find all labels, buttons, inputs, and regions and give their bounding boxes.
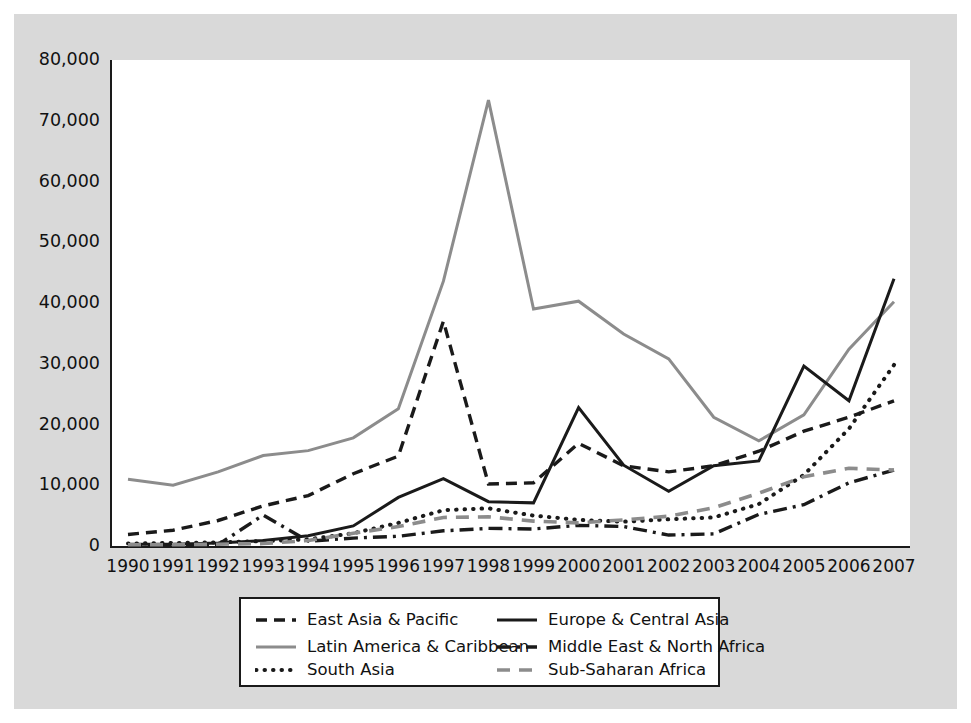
y-tick-label: 70,000 [14, 110, 100, 130]
legend-item[interactable]: Europe & Central Asia [496, 607, 729, 632]
y-tick-label: 10,000 [14, 474, 100, 494]
series-line [128, 365, 894, 544]
series-line [128, 279, 894, 544]
chart-legend: East Asia & PacificEurope & Central Asia… [239, 597, 720, 687]
solid-gray-line-swatch [255, 640, 297, 654]
legend-item-label: Middle East & North Africa [548, 637, 765, 656]
dash-dot-line-swatch [496, 640, 538, 654]
y-tick-label: 60,000 [14, 171, 100, 191]
legend-item[interactable]: South Asia [255, 657, 395, 682]
legend-item[interactable]: Middle East & North Africa [496, 634, 765, 659]
legend-item[interactable]: Latin America & Caribbean [255, 634, 529, 659]
long-dash-gray-line-swatch [496, 663, 538, 677]
series-line [128, 100, 894, 485]
x-tick-label: 2007 [868, 556, 920, 576]
legend-item-label: South Asia [307, 660, 395, 679]
y-tick-label: 80,000 [14, 49, 100, 69]
y-tick-label: 40,000 [14, 292, 100, 312]
chart-figure: 80,00070,00060,00050,00040,00030,00020,0… [14, 14, 957, 709]
dashed-line-swatch [255, 613, 297, 627]
chart-page-background: 80,00070,00060,00050,00040,00030,00020,0… [14, 14, 957, 709]
legend-item-label: Sub-Saharan Africa [548, 660, 706, 679]
legend-item[interactable]: Sub-Saharan Africa [496, 657, 706, 682]
y-tick-label: 0 [14, 535, 100, 555]
series-line [128, 468, 894, 545]
legend-item[interactable]: East Asia & Pacific [255, 607, 458, 632]
y-tick-label: 50,000 [14, 231, 100, 251]
legend-item-label: East Asia & Pacific [307, 610, 458, 629]
solid-black-line-swatch [496, 613, 538, 627]
y-tick-label: 30,000 [14, 353, 100, 373]
series-line [128, 470, 894, 545]
y-tick-label: 20,000 [14, 414, 100, 434]
legend-item-label: Europe & Central Asia [548, 610, 729, 629]
dotted-line-swatch [255, 663, 297, 677]
